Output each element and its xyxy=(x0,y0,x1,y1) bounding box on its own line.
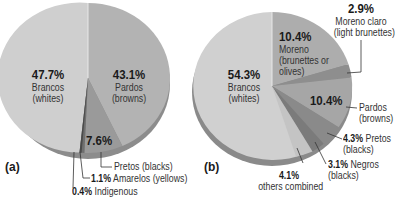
label-pardos-b: Pardos (browns) xyxy=(359,102,393,124)
label-negros-b: 3.1% Negros (blacks) xyxy=(328,159,379,181)
label-brancos-b: 54.3% Brancos (whites) xyxy=(223,68,265,104)
label-indigenous-a: 0.4% Indigenous xyxy=(72,186,138,197)
label-brancos-a: 47.7% Brancos (whites) xyxy=(22,68,75,104)
pct-pardos-b: 10.4% xyxy=(310,94,342,108)
label-amarelos-a: 1.1% Amarelos (yellows) xyxy=(91,173,187,184)
panel-label-a: (a) xyxy=(5,160,20,174)
pct-pretos-a: 7.6% xyxy=(86,134,112,148)
label-others-b: 4.1% others combined xyxy=(258,170,320,192)
label-moreno-claro-b: 2.9% Moreno claro (light brunettes) xyxy=(334,2,389,38)
panel-label-b: (b) xyxy=(204,160,219,174)
label-moreno-b: 10.4% Moreno (brunettes or olives) xyxy=(279,30,329,77)
label-pretos-a: Pretos (blacks) xyxy=(114,161,173,172)
label-pardos-a: 43.1% Pardos (browns) xyxy=(106,68,152,104)
label-pretos-b: 4.3% Pretos (blacks) xyxy=(343,133,391,155)
